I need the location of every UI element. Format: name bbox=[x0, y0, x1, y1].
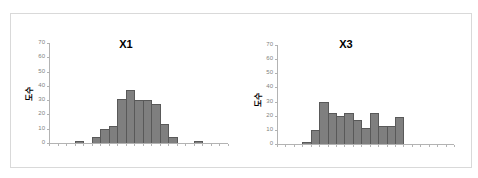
x-tick bbox=[168, 144, 169, 146]
x-tick bbox=[126, 144, 127, 146]
y-tick-label: 50 bbox=[257, 69, 273, 75]
chart-panel: X1 도수 010203040506070 X3 도수 010203040506… bbox=[10, 13, 472, 168]
x-tick bbox=[336, 145, 337, 147]
y-tick bbox=[47, 129, 49, 130]
x-tick bbox=[412, 145, 413, 147]
y-tick-label: 30 bbox=[257, 98, 273, 104]
x-tick bbox=[277, 145, 278, 147]
y-tick bbox=[47, 72, 49, 73]
y-tick bbox=[47, 100, 49, 101]
y-tick bbox=[47, 86, 49, 87]
x-tick bbox=[395, 145, 396, 147]
x-tick bbox=[378, 145, 379, 147]
x-axis bbox=[277, 144, 454, 145]
y-tick-label: 60 bbox=[257, 55, 273, 61]
x-tick bbox=[202, 144, 203, 146]
x-tick bbox=[160, 144, 161, 146]
y-tick-label: 40 bbox=[29, 82, 45, 88]
x-tick bbox=[83, 144, 84, 146]
y-tick bbox=[275, 73, 277, 74]
x-axis bbox=[49, 143, 228, 144]
y-tick-label: 50 bbox=[29, 68, 45, 74]
histogram-x1: X1 도수 010203040506070 bbox=[11, 14, 241, 167]
y-tick-label: 10 bbox=[29, 125, 45, 131]
x-tick bbox=[109, 144, 110, 146]
x-tick bbox=[311, 145, 312, 147]
x-tick bbox=[294, 145, 295, 147]
x-tick bbox=[302, 145, 303, 147]
x-tick bbox=[361, 145, 362, 147]
chart-title: X3 bbox=[326, 38, 366, 50]
y-axis bbox=[277, 45, 278, 144]
x-tick bbox=[285, 145, 286, 147]
y-tick bbox=[47, 57, 49, 58]
x-tick bbox=[75, 144, 76, 146]
x-tick bbox=[446, 145, 447, 147]
x-tick bbox=[454, 145, 455, 147]
x-tick bbox=[420, 145, 421, 147]
chart-title: X1 bbox=[106, 38, 146, 50]
x-tick bbox=[211, 144, 212, 146]
x-tick bbox=[58, 144, 59, 146]
y-tick bbox=[275, 87, 277, 88]
x-tick bbox=[353, 145, 354, 147]
y-axis bbox=[49, 43, 50, 143]
y-tick-label: 0 bbox=[29, 139, 45, 145]
y-tick bbox=[275, 45, 277, 46]
x-tick bbox=[319, 145, 320, 147]
x-tick bbox=[134, 144, 135, 146]
y-tick bbox=[47, 43, 49, 44]
x-tick bbox=[219, 144, 220, 146]
histogram-x3: X3 도수 010203040506070 bbox=[241, 14, 471, 167]
y-tick bbox=[275, 59, 277, 60]
y-tick-label: 70 bbox=[257, 41, 273, 47]
y-tick-label: 40 bbox=[257, 83, 273, 89]
y-tick-label: 10 bbox=[257, 126, 273, 132]
x-tick bbox=[344, 145, 345, 147]
x-tick bbox=[92, 144, 93, 146]
y-tick bbox=[275, 130, 277, 131]
x-tick bbox=[151, 144, 152, 146]
x-tick bbox=[370, 145, 371, 147]
y-tick-label: 20 bbox=[29, 110, 45, 116]
x-tick bbox=[100, 144, 101, 146]
y-tick-label: 20 bbox=[257, 112, 273, 118]
x-tick bbox=[328, 145, 329, 147]
x-tick bbox=[49, 144, 50, 146]
y-tick bbox=[47, 114, 49, 115]
x-tick bbox=[403, 145, 404, 147]
x-tick bbox=[387, 145, 388, 147]
x-tick bbox=[228, 144, 229, 146]
x-tick bbox=[194, 144, 195, 146]
x-tick bbox=[185, 144, 186, 146]
y-tick-label: 0 bbox=[257, 140, 273, 146]
y-tick-label: 30 bbox=[29, 96, 45, 102]
x-tick bbox=[429, 145, 430, 147]
x-tick bbox=[117, 144, 118, 146]
y-tick bbox=[275, 102, 277, 103]
y-tick-label: 70 bbox=[29, 39, 45, 45]
x-tick bbox=[143, 144, 144, 146]
y-tick bbox=[275, 116, 277, 117]
x-tick bbox=[437, 145, 438, 147]
histogram-bar bbox=[395, 117, 404, 145]
y-tick-label: 60 bbox=[29, 53, 45, 59]
x-tick bbox=[177, 144, 178, 146]
x-tick bbox=[66, 144, 67, 146]
